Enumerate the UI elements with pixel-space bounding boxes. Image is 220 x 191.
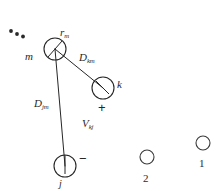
continuation-dots-icon: [9, 29, 25, 38]
label-v-kj: Vkj: [82, 118, 93, 131]
node-k: [92, 77, 114, 99]
label-d-jm: Djm: [34, 98, 49, 111]
label-d-km-subscript: km: [87, 57, 95, 64]
node-site-2-circle: [140, 150, 154, 164]
label-j-base: j: [59, 178, 62, 189]
label-d-jm-subscript: jm: [42, 103, 49, 110]
label-site-1: 1: [199, 158, 205, 169]
label-d-km-base: D: [79, 51, 87, 63]
label-m: m: [25, 51, 33, 62]
label-d-km: Dkm: [79, 52, 95, 65]
physics-diagram: rm m Dkm k Djm Vkj j + − 2 1: [0, 0, 220, 191]
node-site-1-circle: [196, 136, 210, 150]
label-m-base: m: [25, 50, 33, 62]
charge-sign-plus: +: [98, 101, 106, 114]
label-v-kj-base: V: [82, 117, 89, 129]
label-site-2: 2: [143, 173, 149, 184]
charge-sign-minus: −: [79, 152, 87, 165]
node-j: [54, 155, 76, 177]
node-k-internal-line: [96, 81, 109, 94]
label-r-m-subscript: m: [64, 32, 69, 39]
label-j: j: [59, 179, 62, 189]
bond-line-m-j: [55, 49, 65, 166]
label-d-jm-base: D: [34, 97, 42, 109]
label-k-base: k: [117, 78, 122, 90]
label-v-kj-subscript: kj: [89, 123, 94, 130]
diagram-canvas: [0, 0, 220, 191]
node-m: [44, 38, 66, 60]
label-r-m: rm: [60, 27, 69, 40]
label-k: k: [117, 79, 122, 90]
